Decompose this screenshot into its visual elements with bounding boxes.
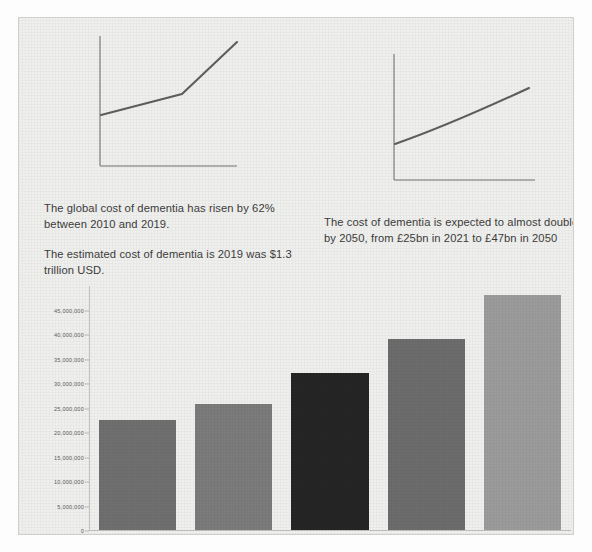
bar-chart-y-tick-label: 45,000,000 — [54, 308, 84, 314]
bar-chart-y-axis — [89, 286, 90, 531]
bar-chart-y-tick-mark — [85, 335, 89, 336]
bar-chart-y-tick-label: 30,000,000 — [54, 381, 84, 387]
bar-chart-plot-area: 05,000,00010,000,00015,000,00020,000,000… — [89, 286, 571, 531]
infographic-page: The global cost of dementia has risen by… — [0, 0, 592, 552]
bar-chart-y-tick-label: 0 — [81, 528, 84, 534]
bar-chart-y-tick-mark — [85, 457, 89, 458]
text-paragraph-projection: The cost of dementia is expected to almo… — [324, 214, 574, 246]
bar-chart-x-axis — [89, 530, 571, 531]
bar-chart-y-tick-mark — [85, 359, 89, 360]
bar-chart-y-tick-label: 15,000,000 — [54, 455, 84, 461]
text-block-projection: The cost of dementia is expected to almo… — [324, 214, 574, 246]
bar-chart-y-tick-label: 25,000,000 — [54, 406, 84, 412]
bar-chart-y-tick-mark — [85, 531, 89, 532]
line-chart-left-series — [101, 42, 237, 115]
bar-chart-y-tick-label: 20,000,000 — [54, 430, 84, 436]
scanned-paper-frame: The global cost of dementia has risen by… — [18, 17, 574, 535]
bar-chart-y-tick-mark — [85, 506, 89, 507]
bar-chart-y-tick-label: 10,000,000 — [54, 479, 84, 485]
bar-chart-y-tick-label: 5,000,000 — [57, 504, 84, 510]
bar-chart-y-tick-label: 35,000,000 — [54, 357, 84, 363]
line-chart-cost-rise — [87, 22, 259, 182]
bar-chart-dementia-cases: 05,000,00010,000,00015,000,00020,000,000… — [27, 266, 574, 534]
bar-chart-bar — [99, 420, 176, 530]
bar-chart-y-tick-mark — [85, 433, 89, 434]
bar-chart-y-tick-mark — [85, 408, 89, 409]
line-chart-right-series — [395, 88, 529, 144]
bar-chart-bar — [291, 373, 368, 530]
bar-chart-bar — [195, 404, 272, 530]
bar-chart-y-tick-mark — [85, 482, 89, 483]
text-paragraph-cost-rise: The global cost of dementia has risen by… — [44, 200, 304, 232]
line-chart-cost-projection — [387, 22, 555, 192]
bar-chart-y-tick-mark — [85, 384, 89, 385]
bar-chart-y-tick-label: 40,000,000 — [54, 332, 84, 338]
bar-chart-y-tick-mark — [85, 310, 89, 311]
bar-chart-bar — [388, 339, 465, 530]
bar-chart-bar — [484, 295, 561, 530]
